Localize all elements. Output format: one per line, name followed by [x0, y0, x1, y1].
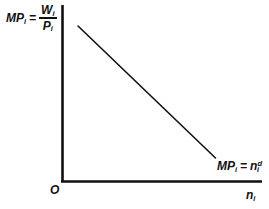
y-axis-label-lhs: MPi — [6, 12, 26, 24]
curve-label: MPi=ndi — [217, 160, 259, 172]
x-axis-label: ni — [246, 189, 255, 201]
fraction-numerator: Wi — [39, 4, 56, 17]
economics-diagram: MPi = Wi Pi O ni MPi=ndi — [0, 0, 269, 209]
origin-label: O — [50, 184, 59, 196]
y-axis-label: MPi = Wi Pi — [6, 4, 57, 32]
y-axis-label-equals: = — [28, 12, 37, 24]
labor-demand-curve-line — [78, 26, 216, 158]
fraction-denominator: Pi — [41, 19, 55, 32]
y-axis-label-fraction: Wi Pi — [39, 4, 56, 32]
